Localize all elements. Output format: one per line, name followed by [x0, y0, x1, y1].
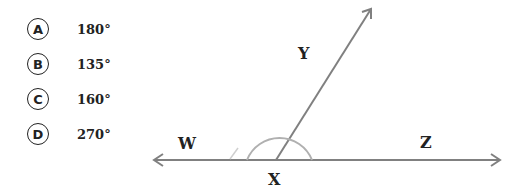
label-w: W [178, 134, 196, 153]
label-y: Y [298, 44, 309, 63]
ray-xy [276, 9, 371, 160]
tick-mark [230, 148, 238, 159]
angle-diagram [0, 0, 525, 191]
label-x: X [268, 170, 280, 189]
label-z: Z [420, 133, 432, 152]
angle-arc [247, 138, 312, 160]
